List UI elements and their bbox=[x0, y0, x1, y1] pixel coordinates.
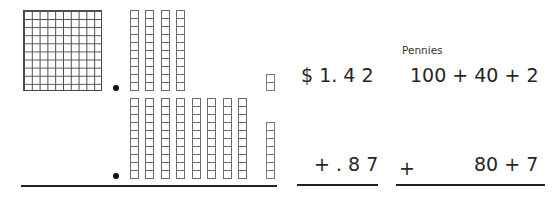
pennies-label: Pennies bbox=[402, 44, 443, 56]
ten-rod bbox=[176, 10, 185, 91]
sum-line-expanded bbox=[396, 184, 545, 186]
expanded-top: 100 + 40 + 2 bbox=[410, 64, 539, 86]
ten-rod bbox=[192, 98, 201, 179]
money-top: $ 1. 4 2 bbox=[301, 64, 374, 86]
ten-rod bbox=[238, 98, 247, 179]
sum-line-money bbox=[297, 184, 378, 186]
decimal-point-bottom bbox=[113, 173, 119, 179]
ten-rod bbox=[130, 98, 139, 179]
hundred-flat bbox=[23, 10, 102, 91]
ten-rod bbox=[130, 10, 139, 91]
ten-rod bbox=[161, 98, 170, 179]
decimal-point-top bbox=[113, 85, 119, 91]
money-bottom: + . 8 7 bbox=[314, 153, 378, 175]
expanded-bottom: 80 + 7 bbox=[474, 153, 538, 175]
ten-rod bbox=[161, 10, 170, 91]
ten-rod bbox=[223, 98, 232, 179]
expanded-plus: + bbox=[399, 157, 415, 179]
ten-rod bbox=[145, 10, 154, 91]
sum-line-blocks bbox=[21, 185, 277, 187]
ten-rod bbox=[207, 98, 216, 179]
unit-cubes-bottom bbox=[266, 122, 275, 179]
ten-rod bbox=[145, 98, 154, 179]
unit-cubes-top bbox=[266, 74, 275, 91]
ten-rod bbox=[176, 98, 185, 179]
